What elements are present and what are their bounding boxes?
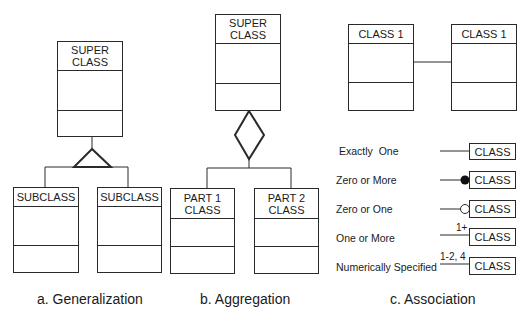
assoc-class-name: CLASS 1 (452, 25, 516, 44)
agg-superclass-attributes (216, 44, 280, 84)
multiplicity-label-zero-or-one: Zero or One (336, 203, 393, 215)
multiplicity-label-numerically-specified: Numerically Specified (336, 261, 437, 273)
agg-part1-attributes (171, 219, 234, 247)
gen-superclass-box: SUPER CLASS (57, 41, 123, 137)
gen-subclass-attributes (98, 207, 161, 246)
gen-superclass-attributes (58, 71, 122, 111)
gen-subclass-box-2: SUBCLASS (97, 187, 162, 273)
multiplicity-label-zero-or-more: Zero or More (336, 174, 397, 186)
multiplicity-class-numerically-specified: CLASS (469, 257, 516, 275)
gen-branch-line (45, 167, 128, 187)
caption-aggregation: b. Aggregation (200, 291, 290, 307)
agg-superclass-name: SUPER CLASS (216, 15, 280, 44)
generalization-triangle-icon (74, 149, 111, 167)
multiplicity-annotation-numerically-specified: 1-2, 4 (440, 251, 466, 262)
agg-part1-box: PART 1 CLASS (170, 188, 235, 274)
multiplicity-class-one-or-more: CLASS (469, 228, 516, 246)
aggregation-diamond-icon (235, 111, 264, 159)
caption-generalization: a. Generalization (37, 291, 143, 307)
agg-part2-box: PART 2 CLASS (254, 188, 319, 274)
assoc-class-box-2: CLASS 1 (451, 24, 517, 111)
agg-superclass-box: SUPER CLASS (215, 14, 281, 111)
multiplicity-label-one-or-more: One or More (336, 232, 395, 244)
multiplicity-class-exactly-one: CLASS (469, 143, 516, 160)
multiplicity-annotation-one-or-more: 1+ (456, 222, 467, 233)
multiplicity-class-zero-or-more: CLASS (469, 171, 516, 189)
agg-branch-line (207, 168, 291, 188)
multiplicity-class-zero-or-one: CLASS (469, 200, 516, 218)
gen-subclass-name: SUBCLASS (98, 188, 161, 207)
gen-subclass-attributes (14, 207, 78, 246)
gen-subclass-box-1: SUBCLASS (13, 187, 79, 273)
assoc-class-attributes (452, 44, 516, 83)
assoc-class-box-1: CLASS 1 (348, 24, 414, 111)
assoc-class-name: CLASS 1 (349, 25, 413, 44)
agg-part1-name: PART 1 CLASS (171, 189, 234, 219)
agg-part2-name: PART 2 CLASS (255, 189, 318, 219)
caption-association: c. Association (390, 291, 476, 307)
assoc-class-attributes (349, 44, 413, 83)
gen-superclass-name: SUPER CLASS (58, 42, 122, 71)
gen-subclass-name: SUBCLASS (14, 188, 78, 207)
multiplicity-label-exactly-one: Exactly One (339, 145, 399, 157)
agg-part2-attributes (255, 219, 318, 247)
